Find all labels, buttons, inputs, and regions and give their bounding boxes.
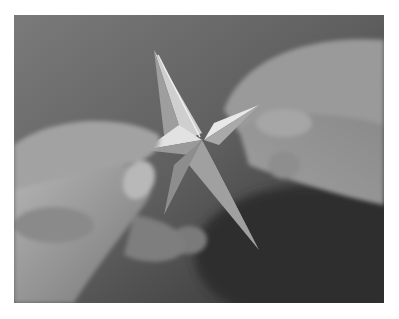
caption-remnant [100, 0, 220, 6]
photo-origami-star-hands [14, 15, 384, 303]
photo-illustration [14, 15, 384, 303]
